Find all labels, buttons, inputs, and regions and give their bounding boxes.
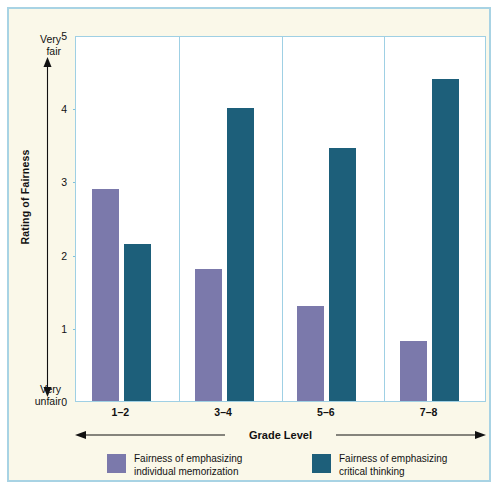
bar-memorization-grade-3-4 [195, 269, 222, 401]
bar-memorization-grade-5-6 [297, 306, 324, 401]
x-axis-title-row: Grade Level [75, 427, 486, 443]
y-tick-label: 3 [53, 176, 67, 188]
bar-thinking-grade-1-2 [124, 244, 151, 401]
y-tick-label: 2 [53, 250, 67, 262]
x-tick-label: 1–2 [90, 406, 150, 418]
chart-legend: Fairness of emphasizingindividual memori… [107, 453, 477, 483]
bar-thinking-grade-5-6 [329, 148, 356, 401]
x-tick-label: 7–8 [399, 406, 459, 418]
plot-area [75, 36, 486, 402]
y-tick-label: 1 [53, 323, 67, 335]
panel-divider [179, 37, 180, 401]
bar-memorization-grade-1-2 [92, 189, 119, 401]
y-axis-title: Rating of Fairness [19, 127, 31, 267]
legend-label: Fairness of emphasizingindividual memori… [134, 453, 242, 478]
y-tick-label: 0 [53, 396, 67, 408]
chart-figure: Rating of Fairness Veryfair Veryunfair 0… [7, 7, 491, 482]
legend-swatch-thinking [312, 454, 331, 473]
bar-thinking-grade-3-4 [227, 108, 254, 401]
bar-thinking-grade-7-8 [432, 79, 459, 401]
bar-memorization-grade-7-8 [400, 341, 427, 401]
y-tick-label: 4 [53, 103, 67, 115]
legend-swatch-memorization [107, 454, 126, 473]
panel-divider [384, 37, 385, 401]
y-tick-label: 5 [53, 30, 67, 42]
x-tick-label: 3–4 [193, 406, 253, 418]
x-axis-title: Grade Level [75, 427, 486, 443]
legend-item-memorization: Fairness of emphasizingindividual memori… [107, 453, 242, 478]
legend-item-thinking: Fairness of emphasizingcritical thinking [312, 453, 447, 478]
x-tick-label: 5–6 [296, 406, 356, 418]
legend-label: Fairness of emphasizingcritical thinking [339, 453, 447, 478]
y-axis-arrow-icon [42, 57, 53, 397]
panel-divider [282, 37, 283, 401]
